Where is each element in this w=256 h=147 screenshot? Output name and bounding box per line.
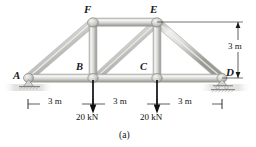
joint-label-D: D [226, 67, 234, 78]
member-E-D [157, 22, 222, 78]
joint-label-F: F [84, 4, 91, 15]
dimension-label-bay3: 3 m [178, 97, 192, 106]
joint-F [88, 18, 99, 27]
member-F-E [91, 18, 159, 27]
dimension-label-bay1: 3 m [48, 97, 62, 106]
member-E-C [153, 22, 162, 79]
joint-label-B: B [76, 62, 83, 73]
member-bottom-chord [26, 74, 225, 83]
joint-label-A: A [13, 70, 20, 81]
figure-canvas: F E A B C D 3 m 3 m 3 m 3 m 20 kN 20 kN … [0, 0, 256, 147]
load-label-B: 20 kN [76, 113, 98, 122]
member-A-F [28, 22, 93, 78]
dimension-label-height: 3 m [228, 42, 242, 51]
joint-label-E: E [150, 4, 157, 15]
truss-diagram [0, 0, 256, 147]
member-F-B [89, 22, 98, 79]
dimension-label-bay2: 3 m [113, 97, 127, 106]
joint-label-C: C [140, 62, 147, 73]
joint-E [152, 18, 163, 27]
figure-caption: (a) [119, 131, 130, 141]
load-label-C: 20 kN [140, 113, 162, 122]
